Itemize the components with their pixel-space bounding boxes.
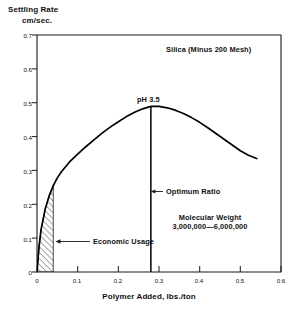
settling-rate-curve-points xyxy=(37,106,257,272)
economic-usage-region xyxy=(37,186,53,272)
y-axis-ticks xyxy=(32,35,37,272)
settling-rate-chart: Settling Rate cm/sec. Polymer Added, lbs… xyxy=(0,0,298,315)
x-axis-ticks xyxy=(37,266,281,272)
economic-usage-leader xyxy=(56,239,91,244)
chart-canvas xyxy=(0,0,298,315)
optimum-ratio-leader xyxy=(151,189,163,193)
